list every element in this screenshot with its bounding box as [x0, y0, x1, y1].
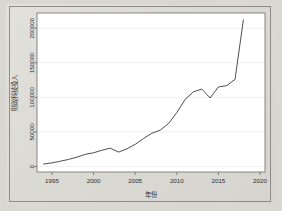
x-tick-label: 2015 — [212, 177, 226, 184]
y-tick-label: 50000 — [28, 123, 35, 141]
x-axis-title: 年份 — [145, 190, 158, 199]
x-tick-label: 2005 — [128, 177, 142, 184]
y-tick-label: 150000 — [28, 52, 35, 73]
x-axis-ticks: 199520002005201020152020 — [45, 172, 267, 184]
y-tick-label: 100000 — [28, 86, 35, 107]
y-axis-title: 财政科技投入 — [10, 74, 19, 111]
x-tick-label: 2010 — [170, 177, 184, 184]
y-axis-ticks: 050000100000150000200000 — [28, 17, 37, 168]
plot-background — [37, 13, 265, 172]
y-tick-label: 200000 — [28, 17, 35, 38]
line-chart: 199520002005201020152020 050000100000150… — [0, 0, 282, 211]
screenshot-root: 199520002005201020152020 050000100000150… — [0, 0, 282, 211]
x-tick-label: 1995 — [45, 177, 59, 184]
y-tick-label: 0 — [28, 164, 35, 168]
x-tick-label: 2020 — [253, 177, 267, 184]
x-tick-label: 2000 — [87, 177, 101, 184]
